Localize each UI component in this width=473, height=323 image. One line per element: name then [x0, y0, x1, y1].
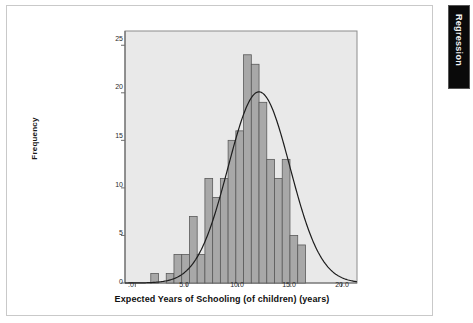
histogram-bar: [220, 178, 228, 283]
y-tick-label-5: 5: [101, 229, 123, 236]
nav-tab-regression[interactable]: Regression: [448, 5, 470, 89]
histogram-bar: [298, 245, 306, 283]
histogram-bar: [267, 159, 275, 283]
y-tick-label-25: 25: [101, 35, 123, 42]
plot-area: [7, 6, 434, 317]
x-tick-label-0: .0: [116, 281, 146, 288]
y-tick-label-10: 10: [101, 181, 123, 188]
histogram-bar: [189, 216, 197, 283]
histogram-bar: [236, 131, 244, 283]
output-page: Frequency 25 20 15 10 5 0 .0 5.0 10.0 15…: [6, 5, 433, 316]
histogram-bar: [197, 254, 205, 283]
y-tick-label-15: 15: [101, 132, 123, 139]
histogram-bar: [275, 178, 283, 283]
spss-output-viewer: Frequency 25 20 15 10 5 0 .0 5.0 10.0 15…: [0, 0, 473, 323]
nav-tab-label: Regression: [454, 14, 464, 66]
x-tick-label-5: 5.0: [169, 281, 199, 288]
x-tick-label-10: 10.0: [222, 281, 252, 288]
histogram-bar: [290, 235, 298, 283]
x-tick-label-15: 15.0: [274, 281, 304, 288]
x-tick-label-20: 20.0: [327, 281, 357, 288]
histogram-bar: [259, 102, 267, 283]
x-axis-title: Expected Years of Schooling (of children…: [67, 294, 377, 304]
y-axis-title: Frequency: [30, 94, 39, 184]
histogram-chart: Frequency 25 20 15 10 5 0 .0 5.0 10.0 15…: [7, 6, 434, 317]
histogram-bar: [282, 159, 290, 283]
y-tick-label-20: 20: [101, 83, 123, 90]
histogram-bar: [244, 55, 252, 283]
